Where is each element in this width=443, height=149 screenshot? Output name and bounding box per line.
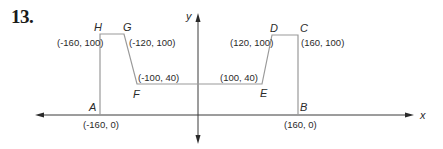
point-label-e: E [260, 87, 268, 99]
coord-label-h: (-160, 100) [57, 37, 103, 48]
point-label-c: C [300, 22, 308, 34]
point-label-d: D [270, 22, 278, 34]
coord-label-d: (120, 100) [230, 37, 273, 48]
coord-label-g: (-120, 100) [129, 37, 175, 48]
y-axis-label: y [185, 10, 193, 22]
point-label-h: H [94, 21, 102, 33]
point-label-b: B [300, 101, 307, 113]
coord-label-b: (160, 0) [284, 119, 317, 130]
x-axis-left-arrow-icon [35, 113, 44, 118]
coord-label-e: (100, 40) [220, 72, 258, 83]
coord-label-a: (-160, 0) [83, 119, 119, 130]
y-axis: y [185, 10, 201, 144]
y-axis-up-arrow-icon [196, 13, 201, 22]
coord-label-c: (160, 100) [301, 37, 344, 48]
point-label-a: A [88, 101, 96, 113]
x-axis-right-arrow-icon [405, 113, 414, 118]
x-axis-label: x [419, 109, 426, 121]
coord-label-f: (-100, 40) [138, 72, 179, 83]
coordinate-figure: x y H G F A D C E B (-160, 100) (-120, 1… [0, 0, 443, 149]
point-label-f: F [133, 88, 141, 100]
y-axis-down-arrow-icon [196, 135, 201, 144]
point-label-g: G [123, 21, 132, 33]
